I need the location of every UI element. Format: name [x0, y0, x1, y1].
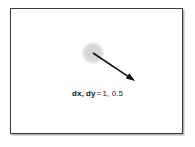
velocity-vector-shaft	[93, 53, 129, 77]
figure-canvas	[11, 9, 184, 135]
caption-value: 1, 0.5	[102, 89, 123, 98]
vector-caption: dx, dy=1, 0.5	[11, 89, 184, 99]
caption-label: dx, dy	[72, 89, 96, 98]
figure-frame: dx, dy=1, 0.5	[10, 8, 183, 134]
figure-root: dx, dy=1, 0.5	[0, 0, 195, 147]
